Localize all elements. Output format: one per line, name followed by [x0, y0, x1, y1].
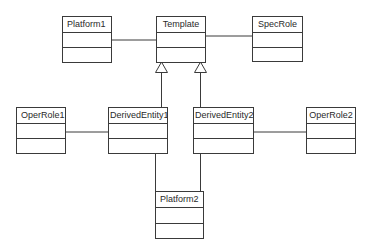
- attributes-compartment: [17, 124, 65, 139]
- class-name: Platform2: [156, 192, 203, 208]
- attributes-compartment: [156, 208, 203, 224]
- generalization-arrowhead-icon: [156, 62, 168, 73]
- attributes-compartment: [307, 124, 355, 139]
- class-name: SpecRole: [253, 17, 302, 33]
- class-derivedentity2[interactable]: DerivedEntity2: [193, 107, 254, 154]
- operations-compartment: [307, 139, 355, 153]
- operations-compartment: [157, 48, 205, 62]
- uml-class-diagram: Platform1 Template SpecRole OperRole1 De…: [0, 0, 371, 249]
- class-template[interactable]: Template: [156, 16, 206, 63]
- class-name: DerivedEntity1: [109, 108, 167, 124]
- class-name: DerivedEntity2: [194, 108, 253, 124]
- generalization-arrowhead-icon: [195, 62, 207, 73]
- attributes-compartment: [109, 124, 167, 139]
- class-name: Template: [157, 17, 205, 33]
- operations-compartment: [194, 139, 253, 153]
- class-derivedentity1[interactable]: DerivedEntity1: [108, 107, 168, 154]
- class-name: Platform1: [63, 17, 111, 33]
- class-operrole2[interactable]: OperRole2: [306, 107, 356, 154]
- class-platform2[interactable]: Platform2: [155, 191, 204, 239]
- operations-compartment: [109, 139, 167, 153]
- class-specrole[interactable]: SpecRole: [252, 16, 303, 62]
- attributes-compartment: [194, 124, 253, 139]
- class-name: OperRole1: [17, 108, 65, 124]
- class-name: OperRole2: [307, 108, 355, 124]
- class-platform1[interactable]: Platform1: [62, 16, 112, 63]
- attributes-compartment: [157, 33, 205, 48]
- operations-compartment: [253, 48, 302, 62]
- attributes-compartment: [253, 33, 302, 48]
- operations-compartment: [156, 224, 203, 239]
- operations-compartment: [63, 48, 111, 62]
- attributes-compartment: [63, 33, 111, 48]
- operations-compartment: [17, 139, 65, 153]
- class-operrole1[interactable]: OperRole1: [16, 107, 66, 154]
